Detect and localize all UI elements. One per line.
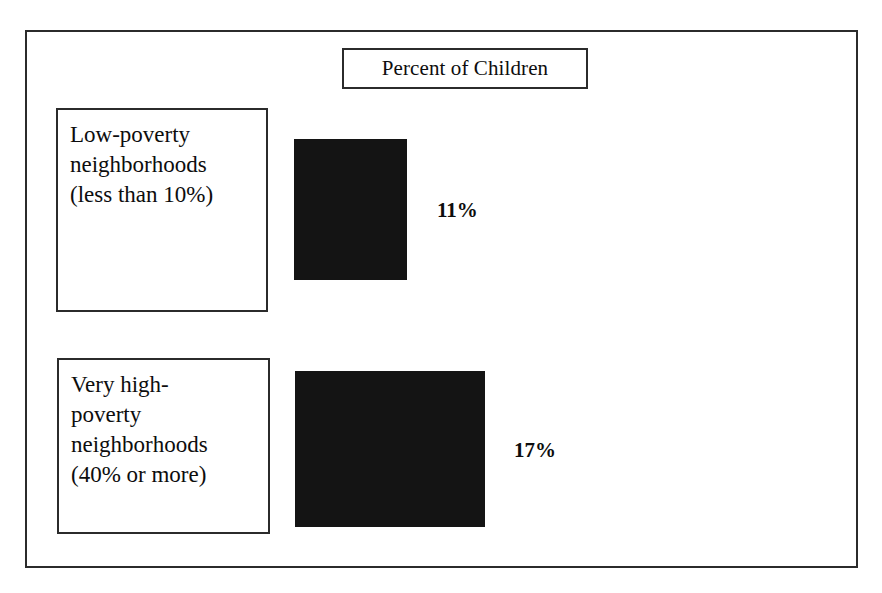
bar-very-high-poverty <box>295 371 485 527</box>
bar-value-label-low-poverty: 11% <box>437 200 478 221</box>
category-label-box-very-high-poverty: Very high- poverty neighborhoods (40% or… <box>57 358 270 534</box>
category-label-text: Low-poverty neighborhoods (less than 10%… <box>70 120 266 210</box>
bar-low-poverty <box>294 139 407 280</box>
chart-title: Percent of Children <box>382 58 548 79</box>
chart-title-box: Percent of Children <box>342 48 588 89</box>
bar-value-label-very-high-poverty: 17% <box>514 440 556 461</box>
category-label-text: Very high- poverty neighborhoods (40% or… <box>71 370 268 490</box>
figure-canvas: Percent of Children Low-poverty neighbor… <box>0 0 882 593</box>
category-label-box-low-poverty: Low-poverty neighborhoods (less than 10%… <box>56 108 268 312</box>
